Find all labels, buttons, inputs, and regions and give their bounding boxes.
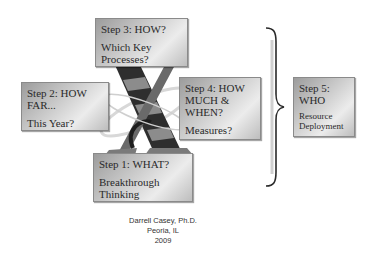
step-1-box: Step 1: WHAT? Breakthrough Thinking <box>93 153 193 202</box>
step-1-title: Step 1: WHAT? <box>99 158 187 170</box>
step-5-title: Step 5: WHO <box>299 82 349 106</box>
step-3-subtitle: Which Key Processes? <box>101 41 182 65</box>
credits: Darrell Casey, Ph.D. Peoria, IL 2009 <box>100 216 226 246</box>
step-3-box: Step 3: HOW? Which Key Processes? <box>95 18 188 67</box>
author-name: Darrell Casey, Ph.D. <box>100 216 226 226</box>
author-location: Peoria, IL <box>100 226 226 236</box>
step-5-subtitle: Resource Deployment <box>299 111 349 131</box>
step-2-subtitle: This Year? <box>27 117 103 129</box>
step-2-box: Step 2: HOW FAR... This Year? <box>21 82 109 131</box>
step-3-title: Step 3: HOW? <box>101 23 182 35</box>
step-4-subtitle: Measures? <box>185 124 255 136</box>
credit-year: 2009 <box>100 236 226 246</box>
step-4-box: Step 4: HOW MUCH & WHEN? Measures? <box>179 77 261 140</box>
step-2-title: Step 2: HOW FAR... <box>27 87 103 111</box>
step-1-subtitle: Breakthrough Thinking <box>99 176 187 200</box>
step-4-title: Step 4: HOW MUCH & WHEN? <box>185 82 255 118</box>
step-5-box: Step 5: WHO Resource Deployment <box>293 77 355 137</box>
curly-brace-icon <box>262 26 286 188</box>
